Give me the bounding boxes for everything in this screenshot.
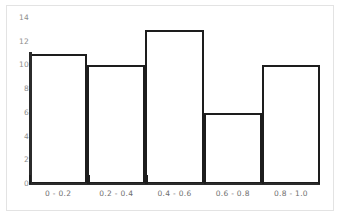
x-tick-mark-5 bbox=[318, 175, 320, 184]
x-tick-label-3: 0.6 - 0.8 bbox=[204, 189, 262, 198]
y-tick-14: 14 bbox=[13, 14, 29, 22]
histogram-bar-4 bbox=[262, 65, 320, 184]
y-axis-line bbox=[29, 52, 32, 184]
y-tick-0: 0 bbox=[13, 180, 29, 188]
histogram-bar-1 bbox=[87, 65, 145, 184]
x-tick-label-2: 0.4 - 0.6 bbox=[145, 189, 203, 198]
x-tick-label-4: 0.8 - 1.0 bbox=[262, 189, 320, 198]
x-tick-mark-3 bbox=[204, 175, 206, 184]
y-tick-2: 2 bbox=[13, 156, 29, 164]
x-tick-mark-4 bbox=[262, 175, 264, 184]
histogram-bar-2 bbox=[145, 30, 203, 184]
x-tick-mark-2 bbox=[145, 175, 147, 184]
x-tick-mark-0 bbox=[29, 175, 31, 184]
x-tick-label-1: 0.2 - 0.4 bbox=[87, 189, 145, 198]
y-tick-6: 6 bbox=[13, 109, 29, 117]
y-tick-4: 4 bbox=[13, 133, 29, 141]
plot-area: 0 2 4 6 8 10 12 14 bbox=[0, 0, 340, 217]
y-tick-12: 12 bbox=[13, 38, 29, 46]
histogram-bar-0 bbox=[29, 54, 87, 184]
x-tick-mark-1 bbox=[87, 175, 89, 184]
y-tick-10: 10 bbox=[13, 61, 29, 69]
histogram-bar-3 bbox=[204, 113, 262, 184]
x-tick-label-0: 0 - 0.2 bbox=[29, 189, 87, 198]
histogram-figure: 0 2 4 6 8 10 12 14 bbox=[0, 0, 340, 217]
x-axis-line bbox=[29, 183, 320, 186]
y-tick-8: 8 bbox=[13, 85, 29, 93]
